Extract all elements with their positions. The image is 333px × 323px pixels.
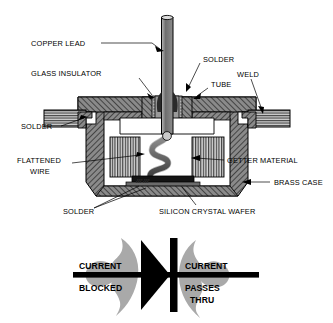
copper-lead-top-cap [162, 15, 173, 19]
diode-cutaway-figure: ▞▞▞ ▞▞▞ [0, 0, 333, 323]
label-weld: WELD [237, 70, 259, 79]
label-solder-bottom: SOLDER [63, 207, 94, 216]
symbol-left-line1: CURRENT [79, 261, 122, 271]
label-flattened-wire-line2: WIRE [30, 167, 50, 176]
wire-ball-contact [163, 132, 172, 141]
label-tube: TUBE [211, 80, 231, 89]
symbol-left-line2: BLOCKED [79, 283, 122, 293]
case-floor-wedge [96, 186, 238, 196]
symbol-right-line3: THRU [190, 295, 214, 305]
symbol-right-line2: PASSES [185, 283, 220, 293]
label-getter-material: GETTER MATERIAL [227, 156, 298, 165]
label-copper-lead: COPPER LEAD [31, 39, 85, 48]
wafer-texture-marks: ▞▞▞ ▞▞▞ [135, 178, 150, 183]
diagram-canvas: ▞▞▞ ▞▞▞ [0, 0, 333, 323]
label-solder-top: SOLDER [203, 55, 234, 64]
label-brass-case: BRASS CASE [274, 178, 323, 187]
label-flattened-wire: FLATTENED [17, 156, 61, 165]
label-solder-left: SOLDER [21, 122, 52, 131]
label-glass-insulator: GLASS INSULATOR [31, 69, 102, 78]
label-silicon-crystal-wafer: SILICON CRYSTAL WAFER [159, 207, 255, 216]
symbol-right-line1: CURRENT [185, 261, 228, 271]
copper-lead-rod [162, 17, 174, 134]
diode-cathode-bar [170, 238, 178, 312]
